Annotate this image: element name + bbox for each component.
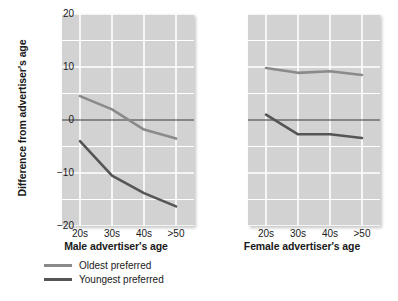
y-tick-label: 20 bbox=[44, 9, 74, 19]
x-tick-label: 30s bbox=[97, 228, 127, 239]
chart-legend: Oldest preferredYoungest preferred bbox=[44, 258, 164, 286]
legend-swatch-line bbox=[44, 264, 72, 267]
plot-lines-female bbox=[248, 14, 380, 226]
x-tick-label: >50 bbox=[161, 228, 191, 239]
y-tick-label: −20 bbox=[44, 221, 74, 231]
legend-label: Youngest preferred bbox=[79, 274, 164, 285]
x-tick-label: 30s bbox=[283, 228, 313, 239]
y-tick-label: 0 bbox=[44, 115, 74, 125]
plot-area-female bbox=[248, 14, 380, 226]
series-line-youngest bbox=[266, 115, 362, 138]
y-tick-label: −10 bbox=[44, 168, 74, 178]
y-tick-label: 10 bbox=[44, 62, 74, 72]
x-tick-label: 40s bbox=[315, 228, 345, 239]
legend-label: Oldest preferred bbox=[79, 260, 151, 271]
legend-item: Oldest preferred bbox=[44, 258, 164, 272]
x-tick-label: >50 bbox=[347, 228, 377, 239]
x-tick-label: 20s bbox=[251, 228, 281, 239]
chart-figure: Difference from advertiser's age 20100−1… bbox=[0, 0, 398, 301]
x-axis-title-male: Male advertiser's age bbox=[26, 240, 206, 252]
panel-male-advertiser: 20100−10−20 20s30s40s>50 Male advertiser… bbox=[26, 0, 206, 255]
legend-swatch-line bbox=[44, 278, 72, 281]
plot-lines-male bbox=[62, 14, 194, 226]
series-line-oldest bbox=[266, 68, 362, 75]
legend-item: Youngest preferred bbox=[44, 272, 164, 286]
x-tick-label: 40s bbox=[129, 228, 159, 239]
plot-area-male bbox=[62, 14, 194, 226]
panel-female-advertiser: 20100−10−20 20s30s40s>50 Female advertis… bbox=[212, 0, 392, 255]
series-line-oldest bbox=[80, 96, 176, 138]
x-axis-title-female: Female advertiser's age bbox=[212, 240, 392, 252]
